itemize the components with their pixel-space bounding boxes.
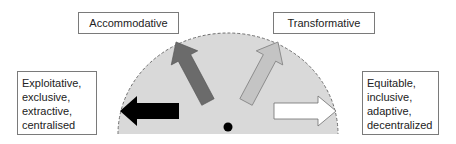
right-pole-line: decentralized [367, 118, 438, 132]
left-pole-line: Exploitative, [22, 76, 96, 90]
left-pole-line: centralised [22, 118, 96, 132]
accommodative-label: Accommodative [89, 16, 167, 30]
left-pole-line: exclusive, [22, 90, 96, 104]
right-pole-line: adaptive, [367, 104, 438, 118]
transformative-label-box: Transformative [273, 12, 375, 34]
right-pole-line: Equitable, [367, 76, 438, 90]
transformative-label: Transformative [288, 16, 361, 30]
left-pole-box: Exploitative, exclusive, extractive, cen… [17, 71, 97, 135]
right-pole-line: inclusive, [367, 90, 438, 104]
accommodative-label-box: Accommodative [78, 12, 179, 34]
left-pole-line: extractive, [22, 104, 96, 118]
right-pole-box: Equitable, inclusive, adaptive, decentra… [362, 71, 439, 135]
center-dot-icon [224, 123, 233, 132]
